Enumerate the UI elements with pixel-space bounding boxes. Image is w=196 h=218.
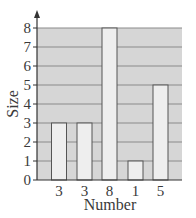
x-axis-title: Number [84, 196, 137, 213]
bar [77, 123, 92, 180]
y-tick-label: 4 [24, 96, 32, 112]
y-tick-label: 0 [24, 172, 32, 188]
bar [153, 85, 168, 180]
x-tick-label: 3 [55, 183, 63, 199]
y-tick-label: 5 [24, 77, 32, 93]
y-tick-label: 8 [24, 20, 32, 36]
y-axis-title: Size [4, 90, 21, 118]
bar [128, 161, 143, 180]
y-tick-label: 2 [24, 134, 32, 150]
y-tick-label: 7 [24, 39, 32, 55]
bar [52, 123, 67, 180]
arrow-up-icon [34, 10, 40, 18]
bar-chart: 012345678 33815 Size Number [0, 0, 196, 218]
y-tick-label: 3 [24, 115, 32, 131]
x-tick-label: 5 [157, 183, 165, 199]
bar [102, 28, 117, 180]
y-tick-label: 6 [24, 58, 32, 74]
y-tick-label: 1 [24, 153, 32, 169]
y-tick-labels: 012345678 [24, 20, 38, 188]
